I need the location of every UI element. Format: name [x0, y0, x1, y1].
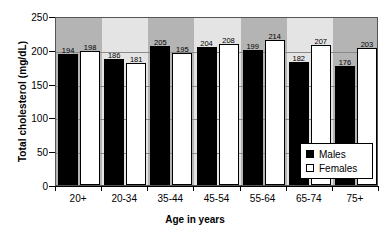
y-axis-tick-group: 050100150200250 [0, 0, 56, 236]
legend-item-males: Males [306, 147, 367, 161]
bar-value-label: 205 [154, 38, 167, 47]
bar-females-20-34 [126, 63, 146, 185]
bar-value-label: 199 [246, 42, 259, 51]
bar-males-45-54 [197, 47, 217, 185]
bar-females-35-44 [172, 53, 192, 185]
y-axis-tick-label: 250 [31, 12, 48, 23]
x-axis-tick-mark [286, 186, 287, 191]
y-axis-tick-label: 0 [42, 181, 48, 192]
legend-item-females: Females [306, 161, 367, 175]
bar-females-55-64 [265, 40, 285, 185]
x-axis-tick-mark [332, 186, 333, 191]
x-axis-tick-mark [55, 186, 56, 191]
bar-value-label: 208 [222, 36, 235, 45]
bar-value-label: 203 [361, 40, 374, 49]
x-axis-tick-label: 45-54 [204, 193, 230, 204]
chart-legend: Males Females [300, 143, 373, 179]
x-axis-tick-mark [147, 186, 148, 191]
x-axis-tick-label: 20+ [70, 193, 87, 204]
x-axis-tick-mark [193, 186, 194, 191]
bar-females-45-54 [219, 44, 239, 185]
bar-females-20+ [80, 51, 100, 185]
x-axis-tick-label: 35-44 [158, 193, 184, 204]
x-axis-tick-mark [240, 186, 241, 191]
bar-males-35-44 [150, 46, 170, 185]
x-axis-tick-label: 20-34 [111, 193, 137, 204]
legend-label-males: Males [319, 149, 346, 160]
x-axis-tick-label: 75+ [346, 193, 363, 204]
bar-value-label: 194 [62, 46, 75, 55]
legend-swatch-females-icon [306, 164, 314, 172]
bar-value-label: 204 [200, 39, 213, 48]
legend-swatch-males-icon [306, 150, 314, 158]
x-axis-title: Age in years [0, 214, 390, 225]
x-axis-tick-label: 55-64 [250, 193, 276, 204]
bar-males-55-64 [243, 50, 263, 185]
bar-value-label: 176 [339, 58, 352, 67]
x-axis-tick-label: 65-74 [296, 193, 322, 204]
bar-value-label: 182 [293, 54, 306, 63]
x-axis-tick-mark [101, 186, 102, 191]
y-axis-tick-label: 50 [37, 147, 48, 158]
cholesterol-bar-chart: Total cholesterol (mg/dL) 05010015020025… [0, 0, 390, 236]
bar-value-label: 198 [84, 43, 97, 52]
y-axis-tick-label: 200 [31, 45, 48, 56]
x-axis-tick-mark [378, 186, 379, 191]
legend-label-females: Females [319, 163, 357, 174]
y-axis-tick-label: 150 [31, 79, 48, 90]
y-axis-tick-label: 100 [31, 113, 48, 124]
bar-value-label: 214 [268, 32, 281, 41]
x-axis-line [55, 186, 378, 187]
bar-value-label: 186 [108, 51, 121, 60]
bar-males-20+ [58, 54, 78, 185]
bar-males-20-34 [104, 59, 124, 185]
bar-value-label: 207 [315, 37, 328, 46]
bar-value-label: 195 [176, 45, 189, 54]
bar-value-label: 181 [130, 55, 143, 64]
